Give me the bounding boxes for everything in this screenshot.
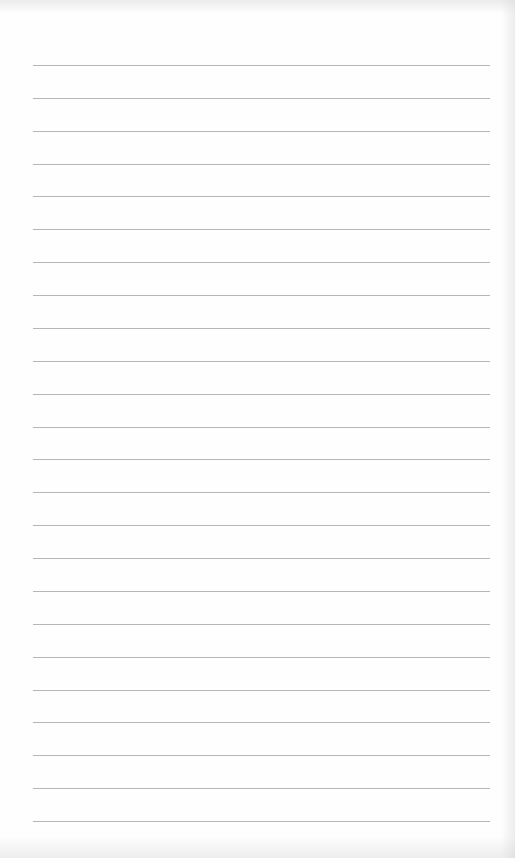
ruled-line [33, 657, 490, 658]
ruled-line [33, 591, 490, 592]
ruled-line [33, 229, 490, 230]
ruled-line [33, 361, 490, 362]
ruled-line [33, 98, 490, 99]
ruled-line [33, 788, 490, 789]
ruled-line [33, 196, 490, 197]
ruled-line [33, 690, 490, 691]
ruled-line [33, 328, 490, 329]
top-edge-shadow [0, 0, 515, 14]
ruled-line [33, 755, 490, 756]
ruled-line [33, 821, 490, 822]
ruled-line [33, 164, 490, 165]
ruled-line [33, 525, 490, 526]
bottom-edge-shadow [0, 836, 515, 858]
ruled-line [33, 558, 490, 559]
ruled-line [33, 394, 490, 395]
ruled-line [33, 427, 490, 428]
ruled-line [33, 65, 490, 66]
ruled-line [33, 722, 490, 723]
ruled-line [33, 295, 490, 296]
ruled-line [33, 624, 490, 625]
ruled-line [33, 459, 490, 460]
ruled-line [33, 131, 490, 132]
right-edge-shadow [501, 0, 515, 858]
ruled-line [33, 492, 490, 493]
lined-paper-sheet [0, 0, 515, 858]
ruled-line [33, 262, 490, 263]
